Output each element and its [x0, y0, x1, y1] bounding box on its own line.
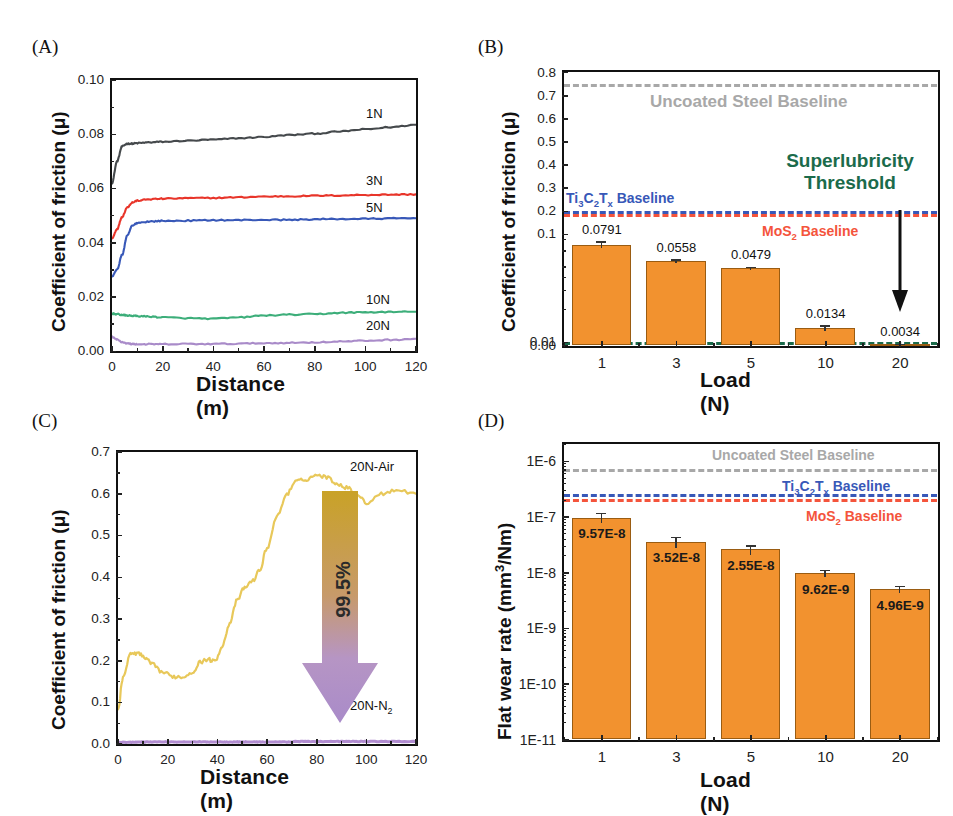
panel-b-mos2-baseline-label: MoS2 Baseline: [762, 223, 858, 242]
panel-d-ytick-minor: [562, 633, 566, 634]
panel-b-threshold-arrow-icon: [880, 210, 920, 315]
panel-a-xtick-mark: [263, 346, 265, 352]
panel-c-ytick-minor: [116, 598, 120, 599]
panel-d-ytick-minor: [562, 611, 566, 612]
panel-d-errorbar-cap: [671, 537, 681, 539]
panel-d-xtick-minor: [713, 737, 715, 741]
panel-d-bar-label: 2.55E-8: [713, 558, 789, 573]
panel-d-bar-label: 9.62E-9: [788, 582, 864, 597]
panel-c-ytick-mark: [116, 535, 122, 537]
panel-d-bar: [572, 518, 632, 740]
panel-b-tag: (B): [478, 36, 503, 58]
panel-d-xtick: 20: [876, 748, 924, 765]
panel-a-xtick: 120: [394, 359, 438, 374]
panel-c-reduction-label: 99.5%: [332, 553, 355, 627]
panel-d-xtick-minor: [564, 737, 566, 741]
panel-b-bar-label: 0.0034: [866, 324, 934, 339]
panel-a-xtick: 0: [90, 359, 134, 374]
panel-d-mxene-baseline-label: Ti3C2Tx Baseline: [782, 478, 890, 497]
panel-d-ytick-minor: [562, 500, 566, 501]
panel-b-xtick-minor: [937, 343, 939, 347]
panel-c-ytick: 0.3: [66, 611, 110, 626]
panel-d-steel-baseline-label: Uncoated Steel Baseline: [712, 447, 875, 463]
panel-c-ytick-minor: [116, 723, 120, 724]
panel-a-series-label-3N: 3N: [366, 173, 383, 188]
panel-d-ytick-minor: [562, 667, 566, 668]
panel-a-xtick-minor: [187, 348, 189, 352]
panel-c-tag: (C): [32, 410, 57, 432]
panel-a-tag: (A): [32, 36, 58, 58]
panel-d-bar-label: 9.57E-8: [564, 526, 640, 541]
panel-b-xtick-minor: [862, 343, 864, 347]
panel-c-xtick-minor: [390, 741, 392, 745]
panel-b-bar-label: 0.0479: [717, 247, 785, 262]
panel-a-ytick: 0.08: [54, 126, 104, 141]
panel-c-ytick: 0.1: [66, 694, 110, 709]
panel-d-bar: [795, 573, 855, 739]
panel-b-xtick-minor: [564, 343, 566, 347]
panel-a-xtick-mark: [213, 346, 215, 352]
panel-d-ytick-minor: [562, 463, 566, 464]
panel-b-ytick-mark: [562, 211, 568, 213]
panel-a-ytick: 0.02: [54, 289, 104, 304]
panel-b-xtick-mark: [899, 341, 901, 347]
panel-a-ytick-mark: [110, 296, 116, 298]
panel-d-ytick-minor: [562, 650, 566, 651]
panel-d-ytick-minor: [562, 546, 566, 547]
panel-d-ytick-minor: [562, 466, 566, 467]
panel-a-ytick: 0.06: [54, 180, 104, 195]
panel-b-xtick-minor: [788, 343, 790, 347]
panel-c-ytick-minor: [116, 514, 120, 515]
panel-b-ytick: 0.2: [510, 203, 556, 218]
panel-c-xtick-mark: [366, 739, 368, 745]
panel-d-ytick-minor: [562, 490, 566, 491]
panel-d-bar: [721, 549, 781, 739]
panel-b-bar: [646, 261, 706, 345]
panel-d-ytick-minor: [562, 555, 566, 556]
panel-b-errorbar-cap: [820, 325, 830, 327]
panel-b-ytick: 0.8: [510, 65, 556, 80]
panel-a-xtick-minor: [390, 348, 392, 352]
panel-d-xtick-minor: [788, 737, 790, 741]
panel-c-ytick-mark: [116, 660, 122, 662]
panel-c-ytick: 0.0: [66, 736, 110, 751]
panel-d-ytick-minor: [562, 575, 566, 576]
panel-b-xtick-minor: [713, 343, 715, 347]
panel-b-bar-label: 0.0134: [792, 306, 860, 321]
panel-b-errorbar-cap: [671, 259, 681, 261]
panel-b-ytick-mark: [562, 164, 568, 166]
panel-c-xtick-mark: [117, 739, 119, 745]
panel-d-ytick-minor: [562, 601, 566, 602]
panel-b-ytick-mark: [562, 141, 568, 143]
panel-c-ytick-mark: [116, 702, 122, 704]
panel-a-ytick-minor: [110, 323, 114, 324]
panel-c-xtick: 100: [344, 752, 388, 767]
panel-a-xtick-minor: [289, 348, 291, 352]
panel-d-xtick-mark: [601, 735, 603, 741]
panel-c-ytick-mark: [116, 577, 122, 579]
panel-c-xtick-mark: [316, 739, 318, 745]
panel-d-ytick-minor: [562, 630, 566, 631]
panel-d-ytick-minor: [562, 636, 566, 637]
panel-b-bar: [572, 245, 632, 345]
panel-d-bar-label: 4.96E-9: [862, 598, 938, 613]
panel-d-ytick-mark: [562, 516, 569, 518]
panel-d-ytick-mark: [562, 461, 569, 463]
panel-b-bar: [721, 268, 781, 345]
panel-b-ytick: 0.1: [510, 226, 556, 241]
panel-d-ytick-minor: [562, 722, 566, 723]
panel-b-xlabel: Load (N): [700, 368, 751, 416]
panel-a-series-label-1N: 1N: [366, 106, 383, 121]
panel-d-ytick-minor: [562, 594, 566, 595]
panel-c-xlabel: Distance (m): [200, 765, 289, 813]
panel-c-ytick: 0.5: [66, 527, 110, 542]
panel-d-xtick: 5: [727, 748, 775, 765]
panel-c-xtick-mark: [217, 739, 219, 745]
panel-c-ytick-mark: [116, 493, 122, 495]
panel-c-xtick-minor: [192, 741, 194, 745]
panel-d-ytick-minor: [562, 700, 566, 701]
panel-d-ytick: 1E-9: [500, 620, 556, 636]
panel-c-ytick: 0.4: [66, 569, 110, 584]
panel-b-bar-label: 0.0791: [568, 222, 636, 237]
panel-b-ytick: 0.6: [510, 111, 556, 126]
